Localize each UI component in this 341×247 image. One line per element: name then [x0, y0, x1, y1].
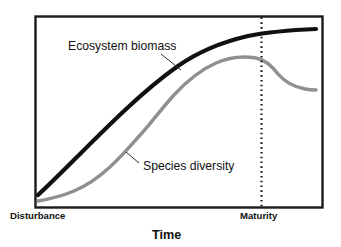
ecological-succession-figure: Ecosystem biomass Species diversity Dist…: [0, 0, 341, 247]
label-species-diversity: Species diversity: [143, 159, 235, 173]
x-axis-tick-disturbance: Disturbance: [10, 210, 65, 221]
x-axis-tick-maturity: Maturity: [240, 210, 278, 221]
label-ecosystem-biomass: Ecosystem biomass: [68, 39, 176, 53]
x-axis-title: Time: [152, 228, 181, 242]
